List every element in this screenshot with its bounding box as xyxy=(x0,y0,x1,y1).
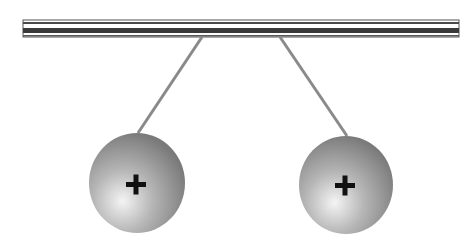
charged-spheres-diagram: + + xyxy=(0,0,468,249)
right-string xyxy=(280,37,347,136)
left-string xyxy=(138,37,202,133)
diagram-canvas xyxy=(0,0,468,249)
horizontal-rod xyxy=(23,20,459,37)
